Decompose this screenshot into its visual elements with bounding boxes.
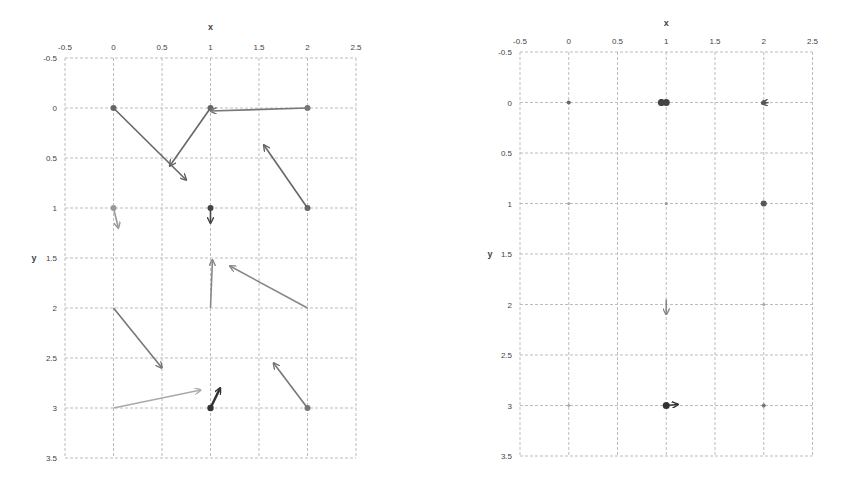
- right-vector-chart: -0.500.511.522.5-0.500.511.522.533.5xy: [460, 0, 846, 487]
- data-point: [567, 404, 570, 407]
- y-tick-label: 2.5: [501, 351, 513, 360]
- x-tick-label: -0.5: [58, 43, 72, 52]
- y-tick-label: 3.5: [46, 454, 58, 463]
- y-tick-label: 3: [53, 404, 58, 413]
- vector-origin-dot: [207, 405, 213, 411]
- y-tick-label: 3: [508, 402, 513, 411]
- y-tick-label: 0.5: [501, 149, 513, 158]
- y-tick-label: 0: [53, 104, 58, 113]
- vector-arrow: [762, 103, 769, 104]
- vector-arrow: [211, 388, 221, 408]
- vector-arrow: [274, 363, 308, 408]
- x-tick-label: 0: [567, 37, 572, 46]
- data-point: [762, 303, 765, 306]
- x-tick-label: 2: [762, 37, 767, 46]
- y-tick-label: 1.5: [501, 250, 513, 259]
- x-tick-label: 0.5: [612, 37, 624, 46]
- x-axis-label: x: [664, 18, 669, 28]
- y-tick-label: 1: [508, 200, 513, 209]
- vector-origin-dot: [305, 205, 311, 211]
- vector-origin-dot: [305, 105, 311, 111]
- x-tick-label: 1.5: [709, 37, 721, 46]
- y-tick-label: 0.5: [46, 154, 58, 163]
- vector-arrow: [666, 404, 678, 405]
- grid: [65, 58, 356, 458]
- x-tick-label: 0: [111, 43, 116, 52]
- x-tick-label: 0.5: [156, 43, 168, 52]
- vector-origin-dot: [111, 105, 117, 111]
- y-tick-label: -0.5: [43, 54, 57, 63]
- x-tick-label: 1: [208, 43, 213, 52]
- grid: [520, 52, 813, 456]
- x-tick-label: -0.5: [513, 37, 527, 46]
- data-point: [762, 404, 766, 408]
- x-axis-label: x: [208, 22, 213, 32]
- y-tick-label: 1.5: [46, 254, 58, 263]
- right-chart-plot: -0.500.511.522.5-0.500.511.522.533.5xy: [460, 0, 846, 487]
- x-tick-label: 2.5: [807, 37, 819, 46]
- vector-arrow: [264, 145, 308, 208]
- data-point: [567, 202, 570, 205]
- y-tick-label: 1: [53, 204, 58, 213]
- x-tick-label: 1.5: [253, 43, 265, 52]
- vector-arrow: [230, 266, 308, 308]
- y-tick-label: -0.5: [498, 48, 512, 57]
- y-tick-label: 3.5: [501, 452, 513, 461]
- vector-arrow: [211, 260, 213, 308]
- vector-origin-dot: [111, 205, 117, 211]
- data-point: [567, 101, 571, 105]
- vector-arrow: [114, 108, 187, 180]
- vector-origin-dot: [208, 105, 214, 111]
- y-axis-label: y: [31, 253, 36, 263]
- x-tick-label: 2: [305, 43, 310, 52]
- vector-origin-dot: [208, 205, 214, 211]
- y-axis-label: y: [487, 249, 492, 259]
- vector-origin-dot: [305, 405, 311, 411]
- data-point: [761, 201, 767, 207]
- y-tick-label: 2: [53, 304, 58, 313]
- y-tick-label: 2.5: [46, 354, 58, 363]
- data-point: [665, 202, 668, 205]
- x-tick-label: 2.5: [350, 43, 362, 52]
- y-tick-label: 0: [508, 99, 513, 108]
- left-chart-plot: -0.500.511.522.5-0.500.511.522.533.5xy: [0, 0, 420, 487]
- x-tick-label: 1: [664, 37, 669, 46]
- vector-arrow: [114, 308, 163, 368]
- left-vector-chart: -0.500.511.522.5-0.500.511.522.533.5xy: [0, 0, 420, 487]
- vector-arrow: [114, 208, 119, 228]
- vector-arrow: [170, 108, 211, 166]
- vector-arrow: [114, 390, 201, 408]
- y-tick-label: 2: [508, 301, 513, 310]
